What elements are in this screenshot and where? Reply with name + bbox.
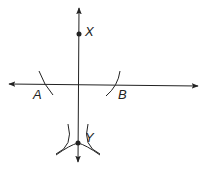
- label-b: B: [118, 87, 127, 102]
- construction-diagram: X A B Y: [0, 0, 206, 171]
- label-x: X: [84, 24, 95, 39]
- arc-y-left: [56, 124, 70, 154]
- horizontal-line: [9, 84, 198, 86]
- label-a: A: [32, 87, 42, 102]
- point-y: [76, 141, 81, 146]
- label-y: Y: [85, 130, 95, 145]
- diagram-canvas: X A B Y: [0, 0, 206, 171]
- point-x: [77, 32, 82, 37]
